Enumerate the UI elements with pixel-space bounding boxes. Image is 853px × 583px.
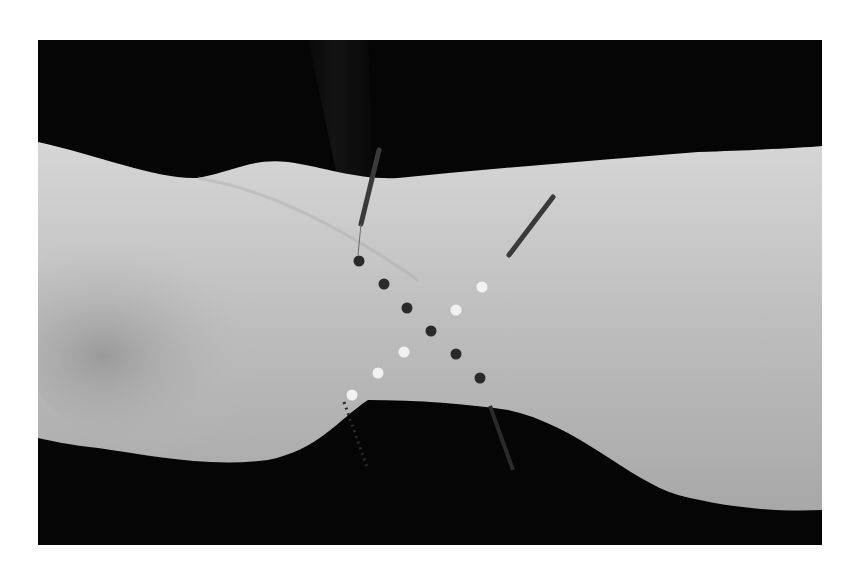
dark-dot: [379, 279, 390, 290]
acupuncture-photo: [38, 40, 822, 545]
light-dot: [347, 390, 358, 401]
dark-dot: [426, 326, 437, 337]
light-dot: [373, 368, 384, 379]
light-dot: [399, 347, 410, 358]
dark-dot: [451, 349, 462, 360]
leg-illustration: [38, 40, 822, 545]
dark-dot: [475, 373, 486, 384]
dark-dot: [354, 256, 365, 267]
light-dot: [451, 305, 462, 316]
dark-dot: [402, 303, 413, 314]
light-dot: [477, 282, 488, 293]
